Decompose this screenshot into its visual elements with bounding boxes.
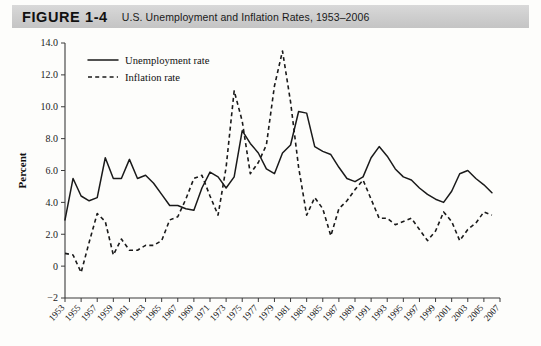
x-tick-label: 1995 [385, 302, 405, 323]
y-axis-title: Percent [16, 152, 28, 188]
x-tick-group: 1953195519571959196119631965196719691971… [47, 298, 502, 323]
y-axis: 14.012.010.08.06.04.02.00−2 [41, 37, 66, 303]
legend-label: Unemployment rate [125, 55, 210, 66]
chart-legend: Unemployment rateInflation rate [88, 55, 210, 83]
x-tick-label: 1965 [143, 302, 163, 323]
line-chart: 14.012.010.08.06.04.02.00−2 195319551957… [0, 28, 541, 346]
x-tick-label: 1991 [353, 302, 373, 323]
y-tick-label: 12.0 [41, 69, 59, 80]
x-tick-label: 1973 [208, 302, 228, 323]
y-tick-label: 4.0 [46, 197, 59, 208]
figure-header-bar: FIGURE 1-4 U.S. Unemployment and Inflati… [12, 5, 529, 28]
y-tick-label: 14.0 [41, 37, 59, 48]
x-tick-label: 1969 [176, 302, 196, 323]
x-tick-label: 1997 [401, 302, 421, 323]
x-tick-label: 1977 [240, 302, 260, 323]
x-tick-label: 1987 [321, 302, 341, 323]
x-tick-label: 1975 [224, 302, 244, 323]
figure-page: FIGURE 1-4 U.S. Unemployment and Inflati… [0, 0, 541, 346]
x-tick-label: 2001 [433, 302, 453, 323]
x-tick-label: 1963 [127, 302, 147, 323]
x-tick-label: 1981 [272, 302, 292, 323]
x-tick-label: 1983 [288, 302, 308, 323]
x-tick-label: 1989 [337, 302, 357, 323]
y-tick-group: 14.012.010.08.06.04.02.00−2 [41, 37, 66, 303]
x-tick-label: 1979 [256, 302, 276, 323]
x-tick-label: 1955 [63, 302, 83, 323]
chart-area: 14.012.010.08.06.04.02.00−2 195319551957… [0, 28, 541, 346]
y-tick-label: −2 [47, 292, 58, 303]
x-tick-label: 1967 [160, 302, 180, 323]
y-tick-label: 8.0 [46, 133, 59, 144]
figure-number-label: FIGURE 1-4 [22, 9, 108, 25]
series-line-unemployment [65, 112, 492, 220]
x-tick-label: 1985 [305, 302, 325, 323]
x-axis: 1953195519571959196119631965196719691971… [47, 298, 502, 323]
legend-label: Inflation rate [125, 72, 180, 83]
x-tick-label: 1959 [95, 302, 115, 323]
y-tick-label: 0 [53, 261, 58, 272]
y-tick-label: 2.0 [46, 229, 59, 240]
x-tick-label: 1993 [369, 302, 389, 323]
x-tick-label: 1953 [47, 302, 67, 323]
x-tick-label: 1999 [417, 302, 437, 323]
x-tick-label: 2003 [450, 302, 470, 323]
x-tick-label: 2007 [482, 302, 502, 323]
x-tick-label: 1961 [111, 302, 131, 323]
data-series-group [65, 51, 492, 273]
x-tick-label: 1971 [192, 302, 212, 323]
y-tick-label: 6.0 [46, 165, 59, 176]
x-tick-label: 2005 [466, 302, 486, 323]
y-tick-label: 10.0 [41, 101, 59, 112]
x-tick-label: 1957 [79, 302, 99, 323]
figure-caption: U.S. Unemployment and Inflation Rates, 1… [122, 11, 370, 23]
